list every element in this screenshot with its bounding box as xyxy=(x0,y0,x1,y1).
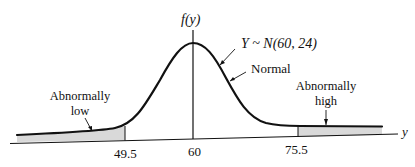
normal-arrowhead xyxy=(230,77,235,81)
tick-label-60: 60 xyxy=(188,145,201,158)
tick-label-49-5: 49.5 xyxy=(114,147,137,160)
tick-label-75-5: 75.5 xyxy=(285,143,308,156)
right-tail-label: Abnormally high xyxy=(295,80,357,107)
y-axis-label: f(y) xyxy=(181,13,200,27)
right-tail-line1: Abnormally xyxy=(295,80,357,93)
curve-label: Normal xyxy=(251,62,291,75)
left-tail-line2: low xyxy=(46,105,114,118)
right-tail-line2: high xyxy=(295,95,357,108)
distribution-label: Y ~ N(60, 24) xyxy=(241,37,317,51)
x-axis-label: y xyxy=(402,125,408,138)
normal-distribution-diagram: f(y) y Y ~ N(60, 24) Normal Abnormally l… xyxy=(0,0,415,167)
left-tail-label: Abnormally low xyxy=(46,90,114,117)
high-arrowhead xyxy=(324,119,328,125)
left-tail-line1: Abnormally xyxy=(46,90,114,103)
